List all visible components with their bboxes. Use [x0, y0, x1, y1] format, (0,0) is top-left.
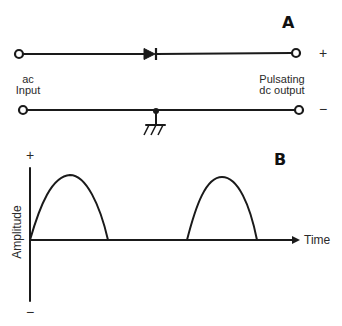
y-negative-sign: −: [26, 304, 34, 320]
pulse-1: [30, 175, 108, 240]
output-negative-sign: −: [319, 101, 327, 117]
top-wire-right: [156, 53, 292, 54]
half-wave-rectifier-diagram: A ac Input Pulsating dc output + −: [0, 0, 342, 326]
panel-b-waveform: B + − Time Amplitude: [10, 147, 331, 320]
x-axis-label: Time: [304, 233, 331, 247]
input-terminal-top: [15, 50, 23, 58]
y-axis-label: Amplitude: [10, 205, 24, 259]
dc-output-label: dc output: [259, 84, 304, 96]
panel-a-letter: A: [282, 13, 295, 32]
output-positive-sign: +: [319, 45, 327, 61]
input-terminal-bottom: [19, 106, 27, 114]
pulse-2: [187, 177, 257, 240]
ground-icon: [144, 111, 165, 135]
panel-b-letter: B: [274, 150, 286, 169]
input-label: Input: [16, 84, 40, 96]
y-positive-sign: +: [26, 147, 34, 163]
x-axis-arrow-icon: [292, 236, 300, 244]
diode-icon: [144, 48, 156, 60]
panel-a-circuit: A ac Input Pulsating dc output + −: [15, 13, 327, 135]
output-terminal-bottom: [295, 106, 303, 114]
output-terminal-top: [292, 49, 300, 57]
